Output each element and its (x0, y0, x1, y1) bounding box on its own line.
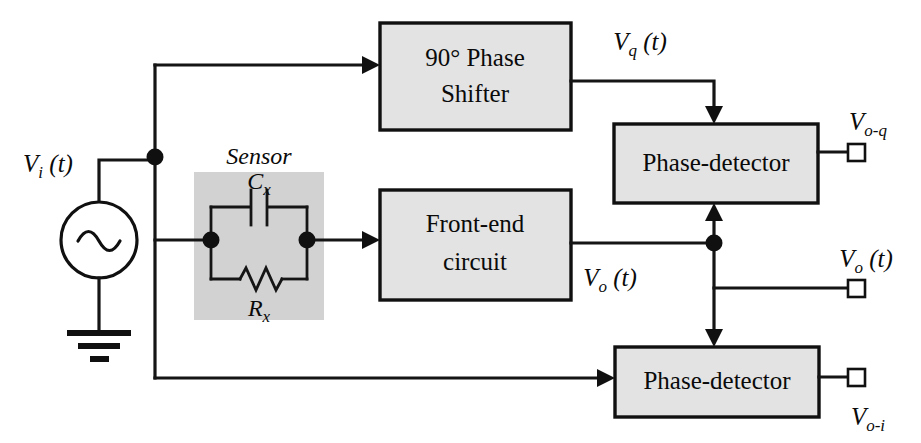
node-sensor-right-dot (299, 232, 316, 249)
diagram-canvas: 90° Phase Shifter Front-end circuit Phas… (0, 0, 921, 443)
wire-vq-to-phase-detector-q (571, 81, 714, 110)
arrowhead-into-phase-detector-i (597, 369, 615, 387)
arrowhead-vo-into-phase-detector-i (705, 329, 723, 347)
label-signal-voi: Vo-i (851, 403, 885, 435)
label-phase-shifter-line2: Shifter (441, 80, 510, 107)
terminal-voi[interactable] (848, 369, 865, 386)
arrowhead-vo-into-phase-detector-q (705, 203, 723, 221)
node-input-bus-dot (147, 149, 164, 166)
ground-bar-2 (78, 343, 120, 349)
block-front-end-circuit[interactable] (380, 190, 571, 300)
block-diagram-figure: 90° Phase Shifter Front-end circuit Phas… (0, 0, 921, 443)
label-front-end-line1: Front-end (426, 210, 525, 237)
label-front-end-line2: circuit (443, 248, 507, 275)
label-signal-vo: Vo (t) (583, 264, 637, 296)
arrowhead-into-phase-shifter (362, 56, 380, 74)
label-phase-shifter-line1: 90° Phase (425, 44, 525, 71)
ground-bar-3 (90, 356, 109, 362)
ground-bar-1 (67, 330, 131, 336)
block-phase-shifter[interactable] (380, 23, 571, 130)
label-signal-vot: Vo (t) (839, 245, 893, 277)
label-signal-voq: Vo-q (849, 108, 887, 140)
label-signal-vq: Vq (t) (613, 28, 667, 60)
label-phase-detector-i: Phase-detector (643, 367, 791, 394)
terminal-vot[interactable] (848, 280, 865, 297)
wire-source-top-lead (99, 160, 155, 202)
label-sensor-title: Sensor (226, 143, 292, 169)
label-phase-detector-q: Phase-detector (642, 149, 790, 176)
node-sensor-left-dot (203, 232, 220, 249)
arrowhead-vq-into-phase-detector-q (705, 106, 723, 124)
label-source-vi: Vi (t) (23, 150, 73, 182)
node-vo-junction-dot (706, 235, 723, 252)
arrowhead-into-front-end (362, 231, 380, 249)
terminal-voq[interactable] (848, 144, 865, 161)
